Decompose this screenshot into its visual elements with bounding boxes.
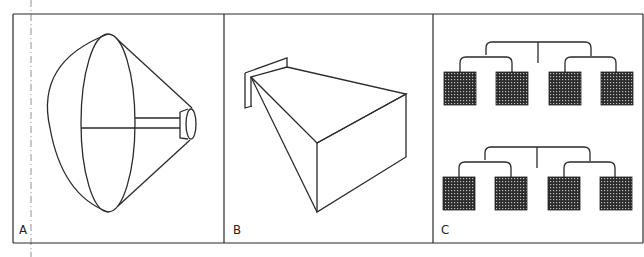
horn-antenna-icon (245, 58, 406, 212)
array-row-top (460, 42, 616, 72)
array-element (443, 177, 475, 210)
array-element (600, 177, 632, 210)
array-element (444, 72, 476, 105)
panel-a: A (19, 34, 196, 237)
panel-label-c: C (441, 222, 449, 237)
array-row-bottom (459, 147, 615, 177)
antenna-figure: A B (0, 0, 644, 257)
panel-label-a: A (19, 222, 27, 237)
array-element (496, 72, 528, 105)
array-element (548, 177, 580, 210)
array-element (549, 72, 581, 105)
panel-label-b: B (233, 222, 241, 237)
panel-c: C (441, 42, 633, 237)
panel-b: B (233, 58, 406, 237)
array-element (601, 72, 633, 105)
dish-antenna-icon (47, 34, 196, 212)
array-element (495, 177, 527, 210)
